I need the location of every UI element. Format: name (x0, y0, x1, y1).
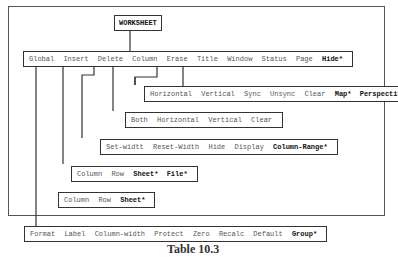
menu-item-delete[interactable]: Delete (98, 55, 123, 63)
window-submenu-box: Horizontal Vertical Sync Unsync Clear Ma… (144, 86, 398, 102)
worksheet-title: WORKSHEET (119, 19, 157, 27)
global-column-width[interactable]: Column-width (95, 230, 145, 238)
menu-item-status[interactable]: Status (262, 55, 287, 63)
global-format[interactable]: Format (30, 230, 55, 238)
delete-submenu-box: Column Row Sheet* File* (71, 166, 198, 182)
window-perspective[interactable]: Perspective* (360, 90, 398, 98)
level1-menu-box: Global Insert Delete Column Erase Title … (23, 51, 353, 67)
insert-column[interactable]: Column (64, 196, 89, 204)
delete-sheet[interactable]: Sheet* (133, 170, 158, 178)
title-clear[interactable]: Clear (251, 116, 272, 124)
menu-item-erase[interactable]: Erase (167, 55, 188, 63)
global-submenu-box: Format Label Column-width Protect Zero R… (24, 226, 327, 242)
global-recalc[interactable]: Recalc (219, 230, 244, 238)
column-range[interactable]: Column-Range* (273, 143, 328, 151)
delete-file[interactable]: File* (167, 170, 188, 178)
window-clear[interactable]: Clear (304, 90, 325, 98)
menu-item-title[interactable]: Title (197, 55, 218, 63)
window-map[interactable]: Map* (335, 90, 352, 98)
menu-item-global[interactable]: Global (29, 55, 54, 63)
menu-item-column[interactable]: Column (132, 55, 157, 63)
title-both[interactable]: Both (131, 116, 148, 124)
global-zero[interactable]: Zero (193, 230, 210, 238)
worksheet-title-box: WORKSHEET (114, 15, 162, 31)
insert-submenu-box: Column Row Sheet* (58, 192, 155, 208)
window-sync[interactable]: Sync (244, 90, 261, 98)
column-submenu-box: Set-widtt Reset-Width Hide Display Colum… (100, 139, 338, 155)
menu-item-hide[interactable]: Hide* (322, 55, 343, 63)
global-label[interactable]: Label (64, 230, 85, 238)
menu-item-insert[interactable]: Insert (63, 55, 88, 63)
delete-row[interactable]: Row (111, 170, 124, 178)
window-vertical[interactable]: Vertical (201, 90, 235, 98)
global-group[interactable]: Group* (292, 230, 317, 238)
column-set-width[interactable]: Set-widtt (106, 143, 144, 151)
insert-row[interactable]: Row (98, 196, 111, 204)
title-submenu-box: Both Horizontal Vertical Clear (125, 112, 283, 128)
title-vertical[interactable]: Vertical (208, 116, 242, 124)
column-hide[interactable]: Hide (208, 143, 225, 151)
global-default[interactable]: Default (253, 230, 282, 238)
menu-item-window[interactable]: Window (227, 55, 252, 63)
global-protect[interactable]: Protect (154, 230, 183, 238)
delete-column[interactable]: Column (77, 170, 102, 178)
figure-caption: Table 10.3 (167, 242, 219, 257)
column-display[interactable]: Display (234, 143, 263, 151)
window-unsync[interactable]: Unsync (270, 90, 295, 98)
insert-sheet[interactable]: Sheet* (120, 196, 145, 204)
title-horizontal[interactable]: Horizontal (157, 116, 199, 124)
menu-item-page[interactable]: Page (296, 55, 313, 63)
connector-lines (0, 0, 398, 264)
window-horizontal[interactable]: Horizontal (150, 90, 192, 98)
column-reset-width[interactable]: Reset-Width (153, 143, 199, 151)
